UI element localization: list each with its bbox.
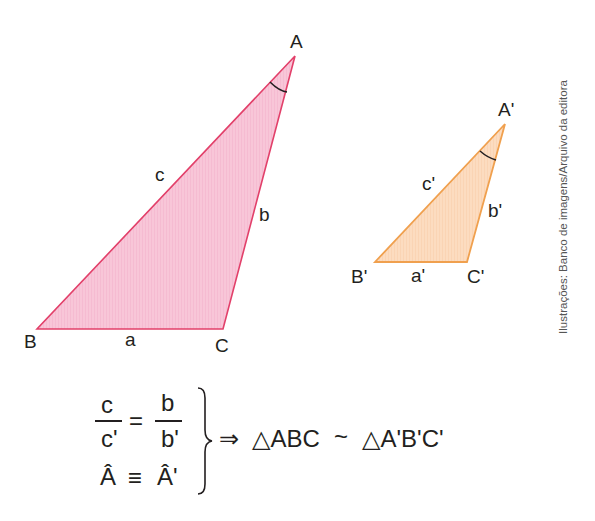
- angle-a-prime-hat: Â': [157, 465, 178, 489]
- fraction-2-numerator: b: [161, 391, 174, 415]
- fraction-2-bar: [155, 420, 182, 422]
- triangle-a-prime-b-prime-c-prime-label: △A'B'C': [362, 427, 444, 451]
- fraction-1-numerator: c: [101, 393, 113, 417]
- angle-a-hat: Â: [100, 465, 116, 489]
- equals-sign: =: [129, 409, 143, 433]
- fraction-1-bar: [95, 420, 122, 422]
- triangle-abc-label: △ABC: [252, 427, 320, 451]
- similarity-formula: c c' = b b' Â ≡ Â' ⇒ △ABC ~ △A'B'C': [0, 0, 595, 521]
- implies-arrow: ⇒: [219, 427, 239, 451]
- fraction-1-denominator: c': [101, 427, 118, 451]
- fraction-2-denominator: b': [161, 427, 179, 451]
- congruent-sign: ≡: [128, 466, 142, 490]
- right-brace-icon: [196, 386, 216, 496]
- similar-sign: ~: [334, 425, 348, 449]
